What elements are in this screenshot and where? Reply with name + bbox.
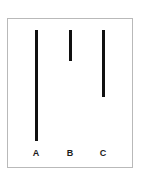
- chart-frame: A B C: [7, 18, 133, 168]
- bar-label-b: B: [58, 148, 82, 159]
- bar-b: [69, 30, 72, 61]
- bar-c: [102, 30, 105, 97]
- bar-label-a: A: [24, 148, 48, 159]
- figure-root: A B C: [0, 0, 142, 179]
- plot-area: A B C: [8, 19, 134, 169]
- bar-a: [35, 30, 38, 141]
- bar-label-c: C: [91, 148, 115, 159]
